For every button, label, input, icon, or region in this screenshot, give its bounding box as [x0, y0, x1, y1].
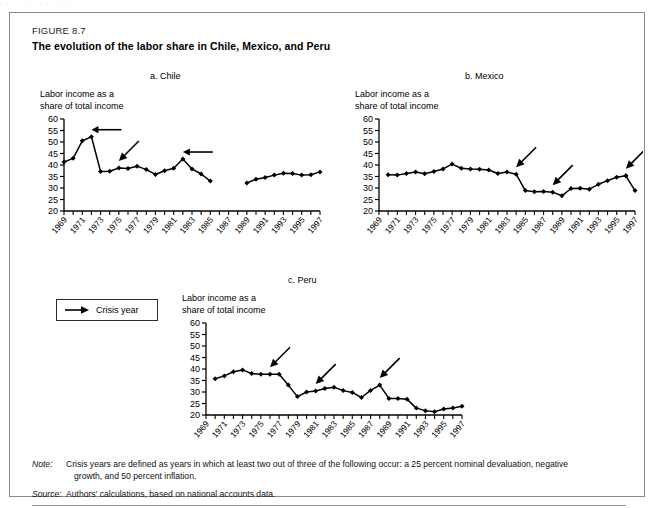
x-tick-label: 1997	[620, 215, 640, 236]
y-tick-label: 25	[190, 399, 200, 409]
data-point-marker	[244, 180, 249, 185]
figure-title: The evolution of the labor share in Chil…	[32, 40, 330, 52]
x-tick-label: 1977	[438, 215, 458, 236]
y-axis-caption-line-1: Labor income as a	[182, 293, 256, 303]
data-point-marker	[290, 171, 295, 176]
panel-mexico: b. Mexico Labor income as a share of tot…	[343, 71, 643, 261]
data-point-marker	[231, 369, 236, 374]
data-point-marker	[532, 189, 537, 194]
panel-title-peru: c. Peru	[288, 275, 317, 285]
right-arrow-icon	[64, 305, 90, 315]
data-point-marker	[308, 172, 313, 177]
y-tick-label: 40	[190, 364, 200, 374]
x-tick-label: 1973	[401, 215, 421, 236]
data-point-marker	[126, 166, 131, 171]
y-tick-label: 55	[363, 126, 373, 136]
data-point-marker	[222, 373, 227, 378]
y-tick-label: 30	[363, 183, 373, 193]
x-tick-label: 1993	[269, 215, 289, 236]
y-tick-label: 20	[48, 206, 58, 216]
y-tick-label: 60	[190, 319, 200, 328]
data-point-marker	[432, 409, 437, 414]
data-point-marker	[299, 173, 304, 178]
data-point-marker	[341, 388, 346, 393]
x-tick-label: 1971	[210, 419, 230, 440]
data-point-marker	[89, 134, 94, 139]
x-tick-label: 1969	[191, 419, 211, 440]
data-point-marker	[318, 169, 323, 174]
data-point-marker	[413, 169, 418, 174]
crisis-year-arrow	[183, 148, 213, 155]
x-tick-label: 1985	[196, 215, 216, 236]
data-point-marker	[272, 173, 277, 178]
chart-svg-mexico: 2025303540455055601969197119731975197719…	[343, 115, 643, 257]
y-tick-label: 35	[363, 172, 373, 182]
x-tick-label: 1987	[356, 419, 376, 440]
x-tick-label: 1969	[364, 215, 384, 236]
data-point-marker	[107, 169, 112, 174]
data-point-marker	[268, 372, 273, 377]
x-tick-label: 1977	[123, 215, 143, 236]
y-axis-caption-line-1: Labor income as a	[355, 89, 429, 99]
crisis-year-arrow	[119, 141, 139, 161]
data-point-marker	[460, 404, 465, 409]
y-tick-label: 45	[363, 149, 373, 159]
data-point-marker	[441, 407, 446, 412]
crisis-year-arrow	[270, 347, 290, 367]
x-tick-label: 1991	[251, 215, 271, 236]
page-top-bleed-text: · · · · · · · · · · · · · ·	[0, 0, 656, 9]
y-tick-label: 25	[363, 195, 373, 205]
note-lead-label: Note:	[32, 459, 53, 471]
plot-area-mexico: 2025303540455055601969197119731975197719…	[343, 115, 643, 257]
x-tick-label: 1989	[232, 215, 252, 236]
y-tick-label: 20	[190, 410, 200, 420]
data-point-marker	[396, 396, 401, 401]
x-tick-label: 1993	[584, 215, 604, 236]
data-point-marker	[541, 189, 546, 194]
x-tick-label: 1969	[49, 215, 69, 236]
x-tick-label: 1987	[214, 215, 234, 236]
y-tick-label: 20	[363, 206, 373, 216]
x-tick-label: 1995	[287, 215, 307, 236]
x-tick-label: 1981	[159, 215, 179, 236]
figure-container: FIGURE 8.7 The evolution of the labor sh…	[9, 12, 645, 497]
data-point-marker	[450, 406, 455, 411]
y-tick-label: 50	[190, 341, 200, 351]
crisis-year-arrow	[626, 149, 643, 169]
y-tick-label: 30	[48, 183, 58, 193]
panel-chile: a. Chile Labor income as a share of tota…	[28, 71, 328, 261]
y-tick-label: 60	[363, 115, 373, 124]
x-tick-label: 1971	[68, 215, 88, 236]
legend-crisis-year: Crisis year	[56, 299, 158, 321]
data-point-marker	[550, 190, 555, 195]
y-tick-label: 45	[190, 353, 200, 363]
x-tick-label: 1991	[393, 419, 413, 440]
data-point-marker	[495, 171, 500, 176]
data-point-marker	[249, 371, 254, 376]
x-tick-label: 1981	[301, 419, 321, 440]
y-axis-caption-line-2: share of total income	[182, 305, 266, 315]
x-tick-label: 1993	[411, 419, 431, 440]
note-row: Note: Crisis years are defined as years …	[32, 459, 626, 482]
data-point-marker	[395, 173, 400, 178]
data-point-marker	[505, 169, 510, 174]
data-point-marker	[404, 171, 409, 176]
x-tick-label: 1995	[429, 419, 449, 440]
x-tick-label: 1997	[305, 215, 325, 236]
y-tick-label: 50	[363, 137, 373, 147]
source-row: Source: Authors' calculations, based on …	[32, 489, 626, 501]
y-tick-label: 45	[48, 149, 58, 159]
x-tick-label: 1975	[419, 215, 439, 236]
data-point-marker	[578, 186, 583, 191]
crisis-year-arrow	[516, 147, 536, 167]
x-tick-label: 1983	[319, 419, 339, 440]
x-tick-label: 1979	[141, 215, 161, 236]
y-tick-label: 25	[48, 195, 58, 205]
data-point-marker	[322, 386, 327, 391]
note-text-continued: growth, and 50 percent inflation.	[66, 471, 626, 483]
data-point-marker	[62, 160, 67, 165]
x-tick-label: 1979	[456, 215, 476, 236]
data-point-marker	[486, 168, 491, 173]
data-point-marker	[468, 166, 473, 171]
crisis-year-arrow	[380, 358, 400, 378]
